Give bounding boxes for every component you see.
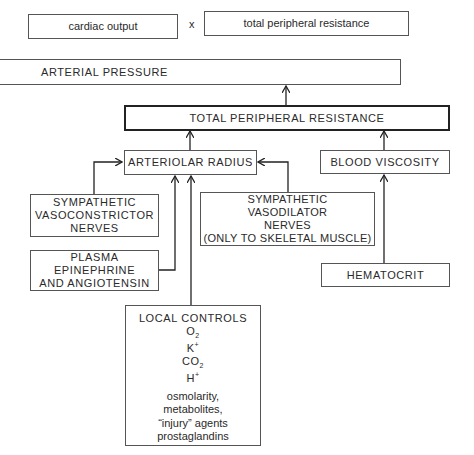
vasodilator-line-4: (ONLY TO SKELETAL MUSCLE) (203, 232, 371, 245)
cardiac-output-label: cardiac output (68, 20, 137, 33)
arrow-plasma-to-radius (158, 176, 175, 270)
vasodilator-line-1: SYMPATHETIC (248, 193, 328, 206)
hematocrit-box: HEMATOCRIT (321, 263, 450, 287)
total-peripheral-resistance-term-label: total peripheral resistance (244, 17, 370, 30)
ion-o2: O2 (186, 325, 200, 341)
arterial-pressure-box: ARTERIAL PRESSURE (0, 59, 401, 85)
vasoconstrictor-nerves-box: SYMPATHETIC VASOCONSTRICTOR NERVES (30, 194, 159, 237)
local-other-3: “injury” agents (158, 417, 228, 430)
arteriolar-radius-box: ARTERIOLAR RADIUS (124, 150, 257, 175)
vasoconstrictor-line-2: VASOCONSTRICTOR (35, 209, 154, 222)
plasma-epinephrine-box: PLASMA EPINEPHRINE AND ANGIOTENSIN (30, 250, 159, 291)
vasoconstrictor-line-3: NERVES (70, 222, 119, 235)
multiply-operator: x (189, 18, 195, 30)
local-controls-box: LOCAL CONTROLS O2 K+ CO2 H+ osmolarity, … (125, 305, 261, 446)
cardiac-output-box: cardiac output (28, 14, 178, 39)
vasodilator-line-2: VASODILATOR (248, 206, 328, 219)
plasma-line-2: EPINEPHRINE (54, 264, 135, 277)
vasodilator-line-3: NERVES (264, 219, 311, 232)
blood-viscosity-box: BLOOD VISCOSITY (320, 150, 450, 174)
total-peripheral-resistance-label: TOTAL PERIPHERAL RESISTANCE (189, 112, 384, 125)
total-peripheral-resistance-term-box: total peripheral resistance (204, 11, 409, 36)
local-other-2: metabolites, (163, 403, 222, 416)
ion-co2: CO2 (182, 355, 204, 371)
arrow-vasoconstrictor-to-radius (94, 162, 122, 194)
ion-h: H+ (186, 371, 199, 385)
arterial-pressure-label: ARTERIAL PRESSURE (41, 66, 168, 79)
hematocrit-label: HEMATOCRIT (347, 269, 425, 282)
plasma-line-3: AND ANGIOTENSIN (39, 277, 149, 290)
plasma-line-1: PLASMA (70, 251, 118, 264)
arrow-vasodilator-to-radius (258, 162, 288, 192)
vasoconstrictor-line-1: SYMPATHETIC (53, 196, 136, 209)
vasodilator-nerves-box: SYMPATHETIC VASODILATOR NERVES (ONLY TO … (200, 192, 375, 246)
local-other-4: prostaglandins (157, 430, 229, 443)
ion-k: K+ (187, 341, 200, 355)
local-controls-title: LOCAL CONTROLS (139, 312, 247, 325)
local-other-1: osmolarity, (167, 390, 219, 403)
total-peripheral-resistance-box: TOTAL PERIPHERAL RESISTANCE (124, 105, 450, 131)
arteriolar-radius-label: ARTERIOLAR RADIUS (128, 156, 253, 169)
blood-viscosity-label: BLOOD VISCOSITY (330, 156, 439, 169)
